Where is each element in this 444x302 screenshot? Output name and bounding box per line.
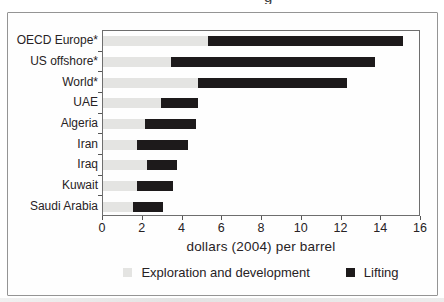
y-axis-tick [98,113,102,114]
figure-frame: OECD Europe*US offshore*World*UAEAlgeria… [7,12,438,296]
legend-swatch-exploration-icon [123,268,132,277]
x-axis-title: dollars (2004) per barrel [102,239,420,254]
y-axis-tick [98,133,102,134]
x-axis-tick-label: 0 [87,221,117,235]
bar-segment-lifting [171,57,376,67]
x-axis-tick-label: 12 [326,221,356,235]
category-label: OECD Europe* [8,34,98,46]
bar-row [103,98,198,108]
x-axis-tick [182,216,183,220]
bar-segment-exploration [103,181,137,191]
x-axis-tick [341,216,342,220]
bar-segment-exploration [103,98,161,108]
bar-segment-exploration [103,119,145,129]
x-axis-tick-label: 6 [206,221,236,235]
bar-row [103,202,163,212]
bar-row [103,78,347,88]
bar-row [103,36,403,46]
bar-row [103,140,188,150]
bar-segment-exploration [103,160,147,170]
bar-segment-exploration [103,78,198,88]
legend-label-exploration: Exploration and development [141,265,309,280]
bar-segment-lifting [145,119,197,129]
cropped-title-fragment: g [258,0,284,4]
bar-segment-lifting [161,98,199,108]
bar-segment-lifting [137,181,173,191]
screenshot-root: { "figure": { "cropped_title_fragment": … [0,0,444,302]
bar-segment-exploration [103,202,133,212]
x-axis-tick [102,216,103,220]
x-axis-tick [142,216,143,220]
x-axis-tick-label: 16 [405,221,435,235]
x-axis-tick [420,216,421,220]
x-axis-tick-label: 8 [246,221,276,235]
category-label: Algeria [8,117,98,129]
cropped-title-letter: g [264,0,272,4]
category-label: World* [8,76,98,88]
bar-segment-lifting [198,78,347,88]
y-axis-tick [98,71,102,72]
bar-segment-exploration [103,57,171,67]
x-axis-tick [221,216,222,220]
scan-edge-artifact [0,298,444,302]
bar-row [103,160,177,170]
bar-segment-lifting [137,140,189,150]
category-label: UAE [8,96,98,108]
y-axis-tick [98,154,102,155]
x-axis-tick [261,216,262,220]
bar-segment-exploration [103,140,137,150]
bar-segment-exploration [103,36,208,46]
legend: Exploration and development Lifting [102,265,420,280]
x-axis-tick [301,216,302,220]
y-axis-tick [98,195,102,196]
x-axis-tick-label: 4 [167,221,197,235]
x-axis-tick [380,216,381,220]
category-label: US offshore* [8,55,98,67]
bar-segment-lifting [208,36,403,46]
x-axis-tick-label: 10 [286,221,316,235]
plot-area [102,30,420,216]
y-axis-tick [98,92,102,93]
y-axis-tick [98,175,102,176]
y-axis-tick [98,51,102,52]
bar-segment-lifting [133,202,163,212]
legend-label-lifting: Lifting [364,265,399,280]
category-label: Iraq [8,158,98,170]
bar-row [103,119,196,129]
category-label: Kuwait [8,179,98,191]
x-axis-tick-label: 2 [127,221,157,235]
bar-row [103,57,375,67]
bar-row [103,181,173,191]
bar-segment-lifting [147,160,177,170]
x-axis-tick-label: 14 [365,221,395,235]
category-label: Iran [8,138,98,150]
category-label: Saudi Arabia [8,200,98,212]
legend-swatch-lifting-icon [346,268,355,277]
